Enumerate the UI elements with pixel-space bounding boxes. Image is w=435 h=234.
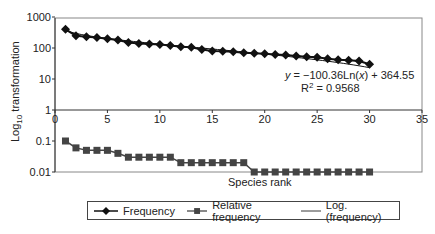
svg-text:20: 20 (259, 113, 271, 125)
legend-label: Relative frequency (212, 199, 289, 223)
legend-item-frequency[interactable]: Frequency (94, 205, 175, 217)
x-axis-label: Species rank (228, 176, 292, 188)
legend-item-relative-frequency[interactable]: Relative frequency (187, 199, 289, 223)
svg-text:1: 1 (45, 104, 51, 116)
svg-text:0: 0 (52, 113, 58, 125)
legend-label: Frequency (123, 205, 175, 217)
svg-text:25: 25 (311, 113, 323, 125)
series-relative-frequency (62, 138, 373, 176)
svg-text:5: 5 (104, 113, 110, 125)
square-marker-icon (187, 206, 207, 216)
r-squared: R2 = 0.9568 (301, 81, 360, 94)
svg-text:1000: 1000 (27, 11, 51, 23)
legend-label: Log. (frequency) (326, 199, 393, 223)
diamond-marker-icon (94, 206, 118, 216)
series-frequency (61, 25, 374, 69)
line-marker-icon (301, 206, 321, 216)
legend-item-log-trendline[interactable]: Log. (frequency) (301, 199, 393, 223)
svg-text:10: 10 (39, 73, 51, 85)
svg-text:35: 35 (416, 113, 428, 125)
y-axis-ticks: 10001001010.10.01 (27, 11, 55, 178)
y-axis-label: Log10 transformation (9, 41, 24, 142)
svg-text:0.1: 0.1 (36, 135, 51, 147)
trendline-equation: y = −100.36Ln(x) + 364.55 (284, 69, 414, 81)
x-axis-ticks: 05101520253035 (52, 110, 428, 125)
svg-text:10: 10 (154, 113, 166, 125)
svg-text:30: 30 (363, 113, 375, 125)
svg-text:0.01: 0.01 (30, 166, 51, 178)
svg-text:100: 100 (33, 42, 51, 54)
svg-text:15: 15 (206, 113, 218, 125)
trendline (65, 31, 369, 68)
legend: Frequency Relative frequency Log. (frequ… (87, 201, 400, 220)
